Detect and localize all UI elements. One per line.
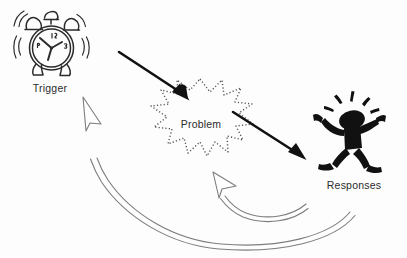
- arrow-problem-to-responses: [233, 112, 307, 160]
- node-label-responses: Responses: [312, 179, 396, 191]
- alarm-clock-icon: [14, 11, 89, 76]
- node-label-trigger: Trigger: [14, 82, 86, 94]
- diagram-canvas: Trigger Problem Responses: [0, 0, 407, 258]
- arrow-trigger-to-problem: [119, 52, 190, 101]
- node-label-problem: Problem: [166, 118, 236, 130]
- arrow-responses-to-problem-feedback: [213, 172, 308, 222]
- distressed-stick-figure-icon: [313, 91, 386, 173]
